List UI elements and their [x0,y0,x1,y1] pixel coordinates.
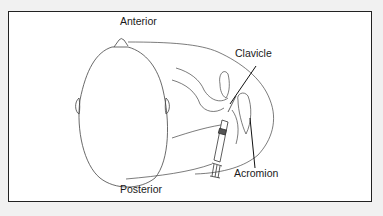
head-outline [76,39,170,188]
label-clavicle: Clavicle [235,47,272,59]
clavicle-leader-line [230,66,256,104]
label-acromion: Acromion [234,167,278,179]
shoulder-outline [126,42,274,179]
label-anterior: Anterior [120,15,157,27]
label-posterior: Posterior [120,183,162,195]
anatomy-illustration [0,0,383,216]
